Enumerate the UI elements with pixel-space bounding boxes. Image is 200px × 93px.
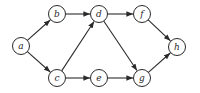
node-label: g	[139, 73, 145, 83]
node-b: b	[49, 6, 66, 23]
node-d: d	[91, 6, 108, 23]
edge-g-h	[148, 53, 170, 72]
node-h: h	[169, 39, 186, 56]
edge-a-c	[27, 52, 50, 72]
edge-a-b	[27, 20, 50, 40]
node-f: f	[134, 6, 151, 23]
node-label: d	[96, 9, 102, 19]
node-label: c	[54, 73, 59, 83]
edge-f-h	[148, 20, 170, 41]
node-c: c	[49, 70, 66, 87]
nodes-layer: abcdefgh	[13, 6, 186, 87]
edge-d-g	[104, 21, 137, 70]
node-label: h	[174, 42, 180, 52]
node-e: e	[91, 70, 108, 87]
graph-svg: abcdefgh	[0, 0, 200, 93]
node-a: a	[13, 38, 30, 55]
node-label: a	[18, 41, 23, 51]
node-label: b	[54, 9, 60, 19]
edge-c-d	[62, 22, 94, 71]
edges-layer	[27, 14, 170, 78]
node-g: g	[134, 70, 151, 87]
graph-diagram: abcdefgh	[0, 0, 200, 93]
node-label: e	[96, 73, 101, 83]
